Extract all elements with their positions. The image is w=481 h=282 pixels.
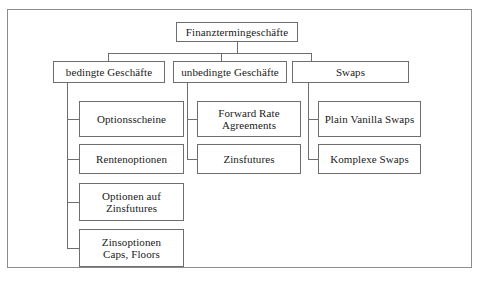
connector-drop-swaps [311,53,312,61]
connector-spine-bedingte [67,83,68,248]
node-root-finanztermingeschaefte: Finanztermingeschäfte [176,22,298,42]
node-optionsscheine: Optionsscheine [79,101,184,137]
connector-bus [108,53,311,54]
node-rentenoptionen: Rentenoptionen [79,144,184,174]
node-plain-vanilla-swaps: Plain Vanilla Swaps [318,101,421,137]
connector-spine-unbedingte [187,83,188,159]
node-optionen-auf-zinsfutures: Optionen auf Zinsfutures [79,183,184,221]
node-branch-bedingte-geschaefte: bedingte Geschäfte [53,61,165,83]
connector-root-stem [237,42,238,53]
connector-drop-unbedingte [221,53,222,61]
diagram-canvas: Finanztermingeschäfte bedingte Geschäfte… [0,0,481,282]
node-forward-rate-agreements: Forward Rate Agreements [197,101,301,137]
node-zinsfutures: Zinsfutures [197,144,301,174]
connector-spine-swaps [308,83,309,159]
diagram-frame: Finanztermingeschäfte bedingte Geschäfte… [7,9,472,268]
node-branch-unbedingte-geschaefte: unbedingte Geschäfte [173,61,287,83]
node-branch-swaps: Swaps [292,61,409,83]
connector-drop-bedingte [108,53,109,61]
node-komplexe-swaps: Komplexe Swaps [318,144,421,174]
node-zinsoptionen-caps-floors: Zinsoptionen Caps, Floors [79,229,184,267]
